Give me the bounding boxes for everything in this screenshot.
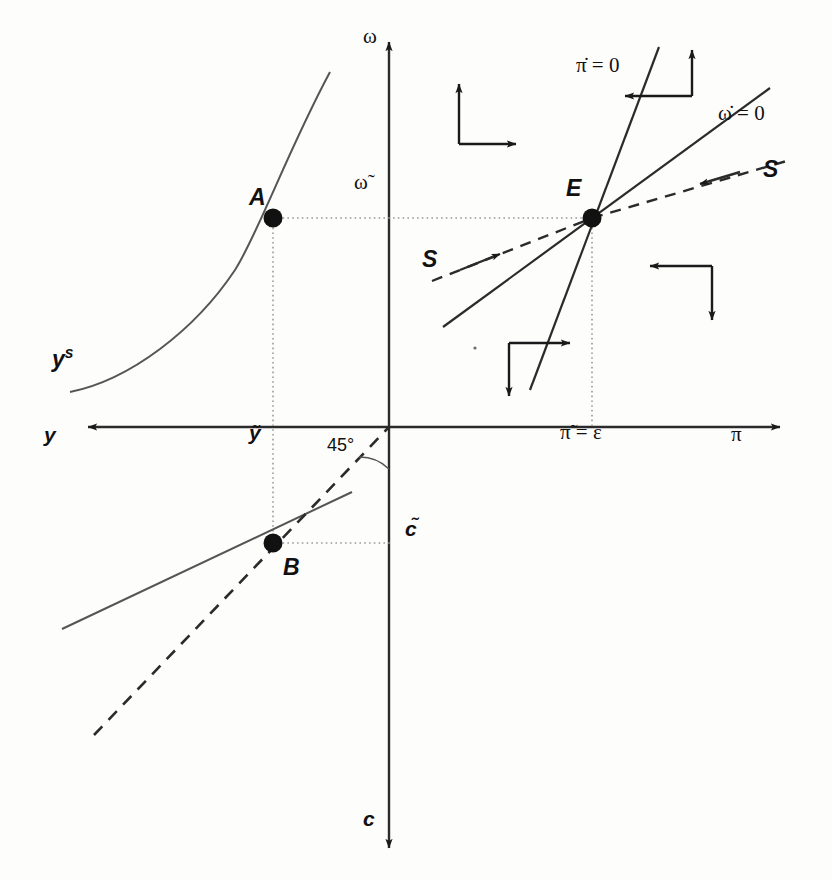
saddle-path-left-arrow bbox=[460, 254, 500, 270]
point-marker-A bbox=[264, 209, 283, 228]
point-label-A: A bbox=[249, 186, 266, 209]
curve-group-lower-left bbox=[62, 427, 389, 735]
axis-label-omega: ω bbox=[363, 26, 377, 47]
phase-arrows-upper-left bbox=[459, 84, 516, 144]
point-marker-B bbox=[264, 534, 283, 553]
tick-label-y-tilde: ỹ bbox=[249, 422, 261, 443]
consumption-line bbox=[62, 492, 352, 629]
phase-arrows-lower-left bbox=[509, 343, 570, 396]
axis-label-pi: π bbox=[731, 424, 742, 445]
axis-label-y: y bbox=[44, 424, 56, 445]
point-label-B: B bbox=[283, 556, 300, 579]
phase-arrows-upper-right bbox=[625, 50, 692, 96]
saddle-path-right-arrow bbox=[700, 172, 740, 184]
axis-label-c: c bbox=[363, 808, 375, 829]
axis-group bbox=[88, 42, 780, 848]
forty-five-degree-line bbox=[94, 427, 389, 735]
diagram-canvas bbox=[0, 0, 832, 880]
phase-arrows-lower-right bbox=[650, 266, 712, 320]
stray-dot bbox=[473, 346, 476, 349]
y-supply-curve bbox=[70, 72, 330, 392]
phase-diagram: y π ω c ỹ π̃ = ε ω̃ c̃ A B E ys π̇ = 0 ω… bbox=[0, 0, 832, 880]
angle-45-arc bbox=[359, 457, 389, 469]
point-label-E: E bbox=[566, 177, 581, 200]
tick-label-pi-tilde: π̃ = ε bbox=[560, 422, 602, 443]
curve-label-y-supply-sup: s bbox=[65, 344, 74, 361]
curve-label-y-supply-base: y bbox=[52, 346, 65, 372]
annotation-angle-45: 45° bbox=[327, 436, 354, 454]
curve-label-pi-dot-nullcline: π̇ = 0 bbox=[576, 55, 619, 76]
point-marker-E bbox=[583, 209, 602, 228]
curve-label-saddle-path-left: S bbox=[422, 248, 437, 271]
curve-label-y-supply: ys bbox=[52, 345, 74, 371]
saddle-path-left-segment bbox=[432, 218, 592, 281]
tick-label-omega-tilde: ω̃ bbox=[354, 172, 368, 193]
curve-group-upper-left bbox=[70, 72, 330, 392]
saddle-path-right-segment bbox=[592, 160, 790, 218]
curve-label-omega-dot-nullcline: ω̇ = 0 bbox=[718, 103, 765, 124]
tick-label-c-tilde: c̃ bbox=[405, 518, 417, 539]
curve-label-saddle-path-right: S bbox=[763, 158, 778, 181]
